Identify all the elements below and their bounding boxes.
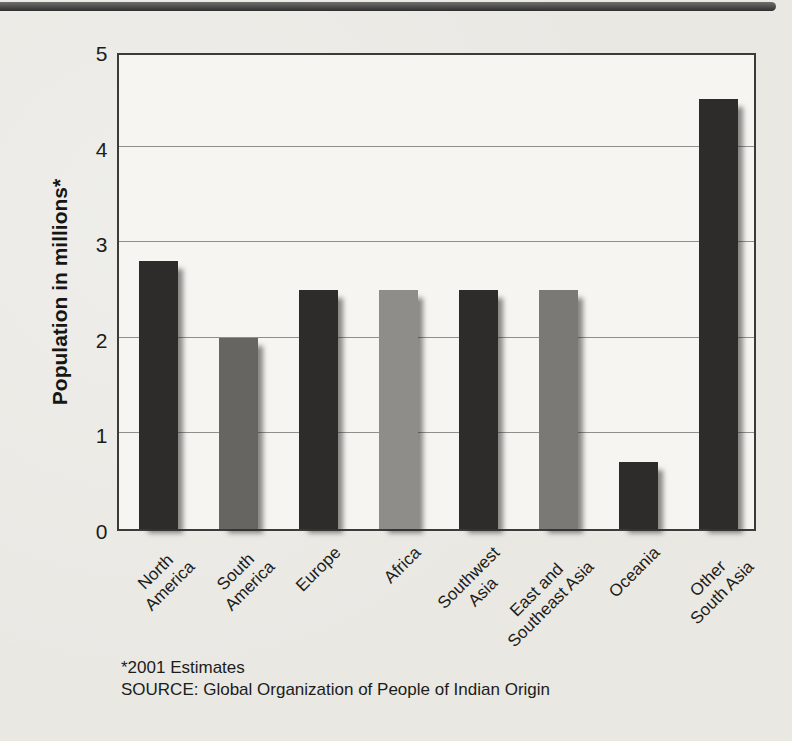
y-tick-3: 3 (73, 233, 107, 257)
bar-africa (379, 290, 418, 529)
y-tick-4: 4 (73, 138, 107, 162)
footnote-estimates: *2001 Estimates (121, 657, 550, 679)
chart-footnotes: *2001 Estimates SOURCE: Global Organizat… (121, 657, 550, 702)
gridline-1 (119, 432, 754, 433)
y-axis-title: Population in millions* (48, 179, 72, 405)
plot-area (117, 53, 756, 531)
footnote-source: SOURCE: Global Organization of People of… (121, 679, 550, 701)
bar-north-america (139, 261, 178, 529)
x-tick-africa: Africa (380, 543, 425, 588)
page-background: Population in millions* 012345 NorthAmer… (0, 0, 792, 741)
gridline-4 (119, 146, 754, 147)
x-tick-oceania: Oceania (605, 543, 664, 602)
x-tick-south-america: SouthAmerica (207, 543, 279, 615)
y-tick-1: 1 (73, 424, 107, 448)
bar-europe (299, 290, 338, 529)
x-tick-line: Africa (380, 543, 425, 588)
bar-east-and-southeast-asia (539, 290, 578, 529)
bar-other-south-asia (699, 99, 738, 529)
bar-south-america (219, 338, 258, 529)
y-tick-5: 5 (73, 42, 107, 66)
x-tick-line: Europe (292, 543, 345, 596)
gridline-2 (119, 337, 754, 338)
x-tick-other-south-asia: OtherSouth Asia (673, 543, 759, 629)
x-tick-north-america: NorthAmerica (127, 543, 199, 615)
x-tick-europe: Europe (292, 543, 345, 596)
bar-southwest-asia (459, 290, 498, 529)
bar-oceania (619, 462, 658, 529)
top-divider-rule (0, 2, 776, 11)
y-tick-2: 2 (73, 329, 107, 353)
y-tick-0: 0 (73, 520, 107, 544)
x-tick-line: Oceania (605, 543, 664, 602)
gridline-3 (119, 241, 754, 242)
